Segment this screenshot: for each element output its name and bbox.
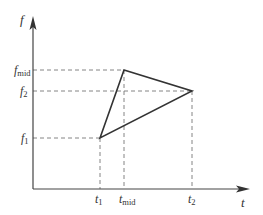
y-tick-f2: f2 (20, 84, 28, 99)
time-frequency-diagram: f t fmid f2 f1 t1 tmid t2 (0, 0, 263, 215)
y-tick-f1: f1 (21, 131, 29, 146)
x-tick-t-mid: tmid (119, 192, 136, 207)
triangle-path (100, 70, 192, 138)
x-axis-label: t (241, 195, 245, 210)
x-tick-t1: t1 (95, 192, 103, 207)
x-tick-t2: t2 (188, 192, 196, 207)
y-axis-label: f (20, 12, 26, 27)
guide-lines (33, 70, 192, 189)
axes (30, 16, 251, 193)
y-tick-f-mid: fmid (14, 63, 31, 78)
